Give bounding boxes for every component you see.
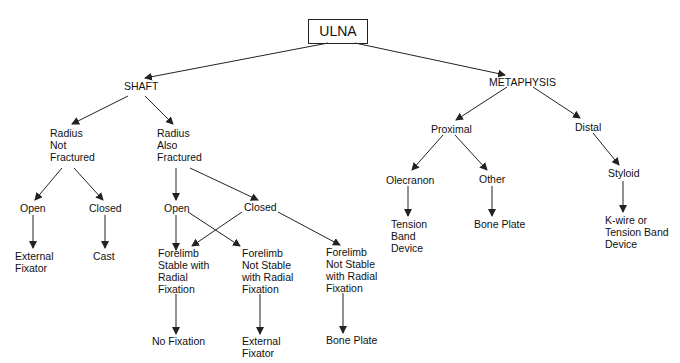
node-external-fixator-2: External Fixator [242,335,281,359]
node-radius-also-fractured: Radius Also Fractured [157,127,202,163]
node-no-fixation: No Fixation [152,335,205,347]
node-forelimb-not-stable-1: Forelimb Not Stable with Radial Fixation [242,247,293,295]
node-raf-closed: Closed [244,201,277,213]
node-external-fixator-1: External Fixator [15,250,54,274]
node-radius-not-fractured: Radius Not Fractured [50,127,95,163]
node-forelimb-stable: Forelimb Stable with Radial Fixation [158,247,209,295]
node-kwire-tension-band: K-wire or Tension Band Device [605,214,669,250]
root-node-ulna: ULNA [308,19,368,44]
node-rnf-open: Open [20,202,46,214]
node-tension-band-device: Tension Band Device [391,218,427,254]
edges-layer [0,0,680,363]
node-raf-open: Open [164,202,190,214]
node-styloid: Styloid [608,167,640,179]
node-bone-plate-meta: Bone Plate [474,218,525,230]
node-bone-plate-shaft: Bone Plate [326,334,377,346]
node-shaft: SHAFT [124,80,158,92]
node-rnf-closed: Closed [89,202,122,214]
node-forelimb-not-stable-2: Forelimb Not Stable with Radial Fixation [326,246,377,294]
node-olecranon: Olecranon [386,174,434,186]
node-cast: Cast [93,250,115,262]
node-metaphysis: METAPHYSIS [489,76,556,88]
node-proximal: Proximal [431,123,472,135]
node-distal: Distal [575,121,601,133]
node-other: Other [479,173,505,185]
